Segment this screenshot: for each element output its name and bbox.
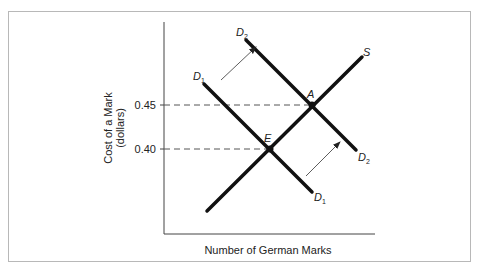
label-d1-top: D 1: [193, 70, 205, 84]
demand-curve-d2: [246, 40, 356, 150]
shift-arrow-upper: [221, 47, 256, 80]
label-a: A: [306, 88, 314, 100]
svg-text:Cost of a Mark: Cost of a Mark: [102, 92, 114, 164]
svg-text:(dollars): (dollars): [114, 108, 126, 148]
svg-text:1: 1: [201, 77, 205, 84]
y-tick-label-040: 0.40: [135, 143, 156, 155]
label-e: E: [264, 132, 272, 144]
label-d2-bottom: D 2: [358, 151, 370, 165]
x-axis-title: Number of German Marks: [204, 244, 332, 256]
svg-text:D: D: [236, 26, 244, 38]
y-tick-label-045: 0.45: [135, 99, 156, 111]
svg-text:D: D: [358, 151, 366, 163]
point-a: [309, 102, 316, 109]
label-d2-top: D 2: [236, 26, 248, 40]
svg-text:D: D: [314, 191, 322, 203]
label-d1-bottom: D 1: [314, 191, 326, 205]
point-e: [267, 146, 274, 153]
demand-curve-d1: [204, 84, 312, 192]
chart-canvas: S D 1 D 2 D 2 D 1 A E 0.45 0.40 Cost of …: [0, 0, 480, 270]
svg-text:2: 2: [366, 158, 370, 165]
shift-arrow-lower: [306, 142, 340, 176]
svg-text:2: 2: [244, 33, 248, 40]
label-s: S: [363, 46, 371, 58]
svg-text:1: 1: [322, 198, 326, 205]
y-axis-title: Cost of a Mark (dollars): [102, 92, 126, 164]
svg-text:D: D: [193, 70, 201, 82]
